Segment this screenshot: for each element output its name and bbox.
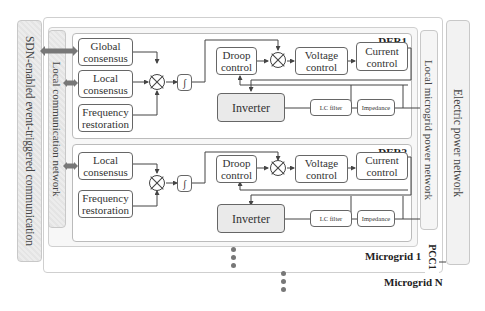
der1-frequency-restoration-block: Frequency restoration <box>78 104 133 132</box>
der1-inverter-block: Inverter <box>217 93 285 122</box>
der2-droop-control-block: Droop control <box>216 155 257 183</box>
microgrid-n-label: Microgrid N <box>384 276 443 288</box>
pcc1-box: PCC1 <box>425 240 439 274</box>
der2-integrator-block: ∫ <box>177 175 192 192</box>
der2-droop-summing-junction-icon <box>270 160 286 176</box>
ellipsis-dot <box>281 271 286 276</box>
der1-droop-control-block: Droop control <box>216 47 257 75</box>
der2-summing-junction-icon <box>149 175 165 191</box>
ellipsis-dot <box>231 247 236 252</box>
ellipsis-dot <box>281 287 286 292</box>
der1-current-control-block: Current control <box>356 42 408 71</box>
der1-lc-filter-block: LC filter <box>310 99 352 116</box>
der1-global-consensus-block: Global consensus <box>78 38 133 66</box>
der2-current-control-block: Current control <box>356 152 408 180</box>
der2-inverter-block: Inverter <box>217 204 285 233</box>
der2-voltage-control-block: Voltage control <box>295 155 348 183</box>
der1-local-consensus-block: Local consensus <box>78 70 133 98</box>
ellipsis-dot <box>281 279 286 284</box>
pcc1-label: PCC1 <box>427 244 438 270</box>
der2-local-consensus-block: Local consensus <box>78 152 133 180</box>
ellipsis-dot <box>231 263 236 268</box>
der2-impedance-block: Impedance <box>357 210 395 227</box>
microgrid-1-label: Microgrid 1 <box>365 250 421 262</box>
der2-lc-filter-block: LC filter <box>310 210 352 227</box>
der2-frequency-restoration-block: Frequency restoration <box>78 190 133 218</box>
der1-droop-summing-junction-icon <box>270 52 286 68</box>
der1-summing-junction-icon <box>149 74 165 90</box>
der1-voltage-control-block: Voltage control <box>295 47 348 75</box>
der1-impedance-block: Impedance <box>357 99 395 116</box>
ellipsis-dot <box>231 255 236 260</box>
der1-integrator-block: ∫ <box>177 74 192 91</box>
